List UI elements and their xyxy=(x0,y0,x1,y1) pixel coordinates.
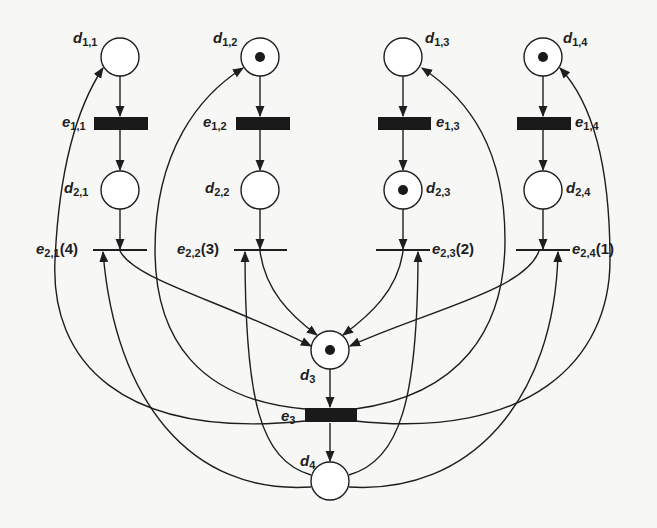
place-d11 xyxy=(101,38,139,76)
arc-e21-d3 xyxy=(120,251,311,346)
place-d21 xyxy=(101,171,139,209)
label-d23: d2,3 xyxy=(426,180,450,198)
label-d3: d3 xyxy=(300,367,315,385)
label-d4: d4 xyxy=(300,453,315,471)
label-e3: e3 xyxy=(281,408,295,426)
label-e14: e1,4 xyxy=(575,114,599,132)
petri-net-graphics xyxy=(0,0,657,528)
place-d24 xyxy=(524,171,562,209)
transition-e13 xyxy=(378,117,431,130)
label-e13: e1,3 xyxy=(436,114,460,132)
petri-net-diagram: d1,1 d1,2 d1,3 d1,4 e1,1 e1,2 e1,3 e1,4 … xyxy=(0,0,657,528)
label-e23: e2,3(2) xyxy=(432,241,474,259)
label-e12: e1,2 xyxy=(203,114,227,132)
label-e22: e2,2(3) xyxy=(177,241,219,259)
label-e24: e2,4(1) xyxy=(572,241,614,259)
arc-e22-d3 xyxy=(260,251,317,335)
transition-e3 xyxy=(305,408,357,422)
arc-e23-d3 xyxy=(343,251,403,335)
token-icon-d14 xyxy=(538,52,548,62)
label-e11: e1,1 xyxy=(62,114,86,132)
label-d21: d2,1 xyxy=(64,180,88,198)
arc-d4-e23 xyxy=(349,252,418,475)
arc-e24-d3 xyxy=(350,251,539,346)
label-d24: d2,4 xyxy=(566,180,590,198)
token-icon-d12 xyxy=(255,52,265,62)
transition-e14 xyxy=(517,117,571,130)
label-d11: d1,1 xyxy=(73,30,97,48)
token-icon-d3 xyxy=(325,345,335,355)
place-d4 xyxy=(311,462,349,500)
place-d22 xyxy=(241,171,279,209)
place-d13 xyxy=(384,38,422,76)
transition-e12 xyxy=(236,117,290,130)
transition-e11 xyxy=(94,117,148,130)
token-icon-d23 xyxy=(398,185,408,195)
arc-d4-e22 xyxy=(245,252,311,475)
label-d14: d1,4 xyxy=(563,30,587,48)
label-d12: d1,2 xyxy=(213,30,237,48)
label-e21: e2,1(4) xyxy=(36,241,78,259)
label-d13: d1,3 xyxy=(425,30,449,48)
arc-d4-e21 xyxy=(103,252,311,487)
label-d22: d2,2 xyxy=(205,180,229,198)
